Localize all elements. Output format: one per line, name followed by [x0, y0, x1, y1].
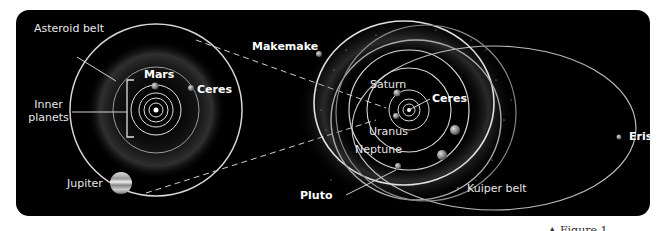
jupiter-icon [110, 172, 132, 194]
label-saturn: Saturn [370, 78, 406, 91]
neptune-icon [437, 150, 447, 160]
figure-caption-fragment: ▲ Figure 1 ... [548, 224, 621, 231]
eris-icon [617, 135, 622, 140]
label-ceres-right: Ceres [432, 92, 467, 105]
pluto-icon [395, 163, 401, 169]
uranus-icon [450, 125, 460, 135]
label-eris: Eris [629, 130, 650, 143]
label-mars: Mars [144, 68, 174, 81]
label-ceres-left: Ceres [197, 83, 232, 96]
label-kuiper-belt: Kuiper belt [467, 182, 527, 195]
label-pluto: Pluto [300, 189, 332, 202]
jupiter-small-icon [393, 113, 399, 119]
label-uranus: Uranus [369, 125, 408, 138]
label-jupiter: Jupiter [67, 177, 103, 190]
label-makemake: Makemake [252, 40, 318, 53]
label-inner-planets: Inner planets [26, 98, 71, 124]
ceres-icon [188, 85, 194, 91]
orbit-diagram-svg [16, 10, 650, 216]
label-asteroid-belt: Asteroid belt [34, 22, 104, 35]
outer-solar-system [296, 15, 636, 210]
mars-icon [152, 83, 159, 90]
label-neptune: Neptune [355, 143, 402, 156]
solar-system-diagram: Asteroid belt Inner planets Mars Ceres J… [16, 10, 650, 216]
